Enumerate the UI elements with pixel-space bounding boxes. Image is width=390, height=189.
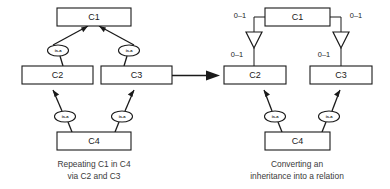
arrowhead-c4-c3 xyxy=(128,90,134,97)
left-isa-oval-c4-c2-label: is-a xyxy=(62,114,69,119)
left-caption-line-2: via C2 and C3 xyxy=(67,171,120,181)
cardinality-c1-right: 0–1 xyxy=(350,11,362,20)
left-entity-c3[interactable]: C3 xyxy=(101,66,172,84)
right-entity-c4[interactable]: C4 xyxy=(265,132,330,150)
right-caption-line-2: inheritance into a relation xyxy=(250,171,344,181)
left-caption-line-1: Repeating C1 in C4 xyxy=(57,159,130,169)
right-diagram-panel: C1 C2 C3 C4 is-a xyxy=(224,8,372,181)
transformation-arrow-head xyxy=(206,70,220,80)
right-relationship-isa-c4-c2[interactable]: is-a xyxy=(265,111,286,122)
left-isa-oval-c4-c3-label: is-a xyxy=(119,114,126,119)
right-entity-c2[interactable]: C2 xyxy=(224,66,286,84)
left-entity-c2-label: C2 xyxy=(52,70,64,80)
right-isa-oval-c4-c3-label: is-a xyxy=(326,114,333,119)
right-relationship-isa-c4-c3[interactable]: is-a xyxy=(319,111,340,122)
right-entity-c2-label: C2 xyxy=(249,70,261,80)
connector-c3-to-isa-right xyxy=(124,56,127,66)
left-relationship-isa-c2-c1[interactable]: is-a xyxy=(48,45,69,56)
cardinality-c1-left: 0–1 xyxy=(234,11,246,20)
connector-r-c4-to-isa-left xyxy=(278,122,282,132)
right-entity-c3-label: C3 xyxy=(335,70,347,80)
left-entity-c2[interactable]: C2 xyxy=(22,66,93,84)
left-entity-c4-label: C4 xyxy=(88,136,100,146)
connector-c4-to-isa-br xyxy=(115,122,119,132)
left-entity-c1-label: C1 xyxy=(88,12,100,22)
arrowhead-c4-c2 xyxy=(53,90,59,97)
right-entity-c4-label: C4 xyxy=(292,136,304,146)
right-entity-c1[interactable]: C1 xyxy=(265,8,330,26)
arrowhead-r-c4-c2 xyxy=(264,90,270,97)
left-entity-c1[interactable]: C1 xyxy=(57,8,131,26)
diagram-root: C1 C2 C3 C4 is-a xyxy=(0,0,390,189)
connector-c2-to-isa-left xyxy=(60,56,63,66)
left-entity-c4[interactable]: C4 xyxy=(57,132,131,150)
arrowhead-c3-c1 xyxy=(99,26,106,32)
left-entity-c3-label: C3 xyxy=(131,70,143,80)
cardinality-c3-top: 0–1 xyxy=(318,50,330,59)
transformation-arrow xyxy=(172,70,220,80)
tri-left-icon xyxy=(246,32,262,48)
left-isa-oval-c2-c1-label: is-a xyxy=(55,48,62,53)
arrowhead-c2-c1 xyxy=(81,26,88,32)
right-entity-c3[interactable]: C3 xyxy=(310,66,372,84)
left-diagram-panel: C1 C2 C3 C4 is-a xyxy=(22,8,172,181)
connector-c4-to-isa-bl xyxy=(68,122,72,132)
right-isa-oval-c4-c2-label: is-a xyxy=(272,114,279,119)
connector-c1-left-elbow xyxy=(254,17,265,32)
arrowhead-r-c4-c3 xyxy=(334,90,340,97)
left-relationship-isa-c4-c3[interactable]: is-a xyxy=(112,111,133,122)
left-relationship-isa-c3-c1[interactable]: is-a xyxy=(119,45,140,56)
left-relationship-isa-c4-c2[interactable]: is-a xyxy=(55,111,76,122)
diagram-canvas: C1 C2 C3 C4 is-a xyxy=(0,0,390,189)
tri-right-icon xyxy=(333,32,349,48)
connector-r-c4-to-isa-right xyxy=(322,122,326,132)
left-isa-oval-c3-c1-label: is-a xyxy=(126,48,133,53)
right-caption-line-1: Converting an xyxy=(271,159,323,169)
cardinality-c2-top: 0–1 xyxy=(231,50,243,59)
right-entity-c1-label: C1 xyxy=(292,12,304,22)
connector-c1-right-elbow xyxy=(330,17,341,32)
